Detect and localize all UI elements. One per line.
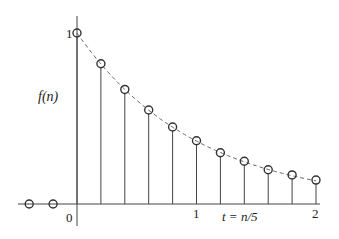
x-tick-label-2: 2 — [312, 206, 319, 221]
x-tick-label-1: 1 — [193, 206, 200, 221]
origin-label: 0 — [66, 210, 73, 225]
y-tick-label-1: 1 — [66, 26, 73, 41]
stems — [77, 37, 316, 204]
y-axis-label: f(n) — [38, 89, 59, 105]
stem-marker — [312, 176, 320, 184]
stem-marker — [121, 85, 129, 93]
stem-plot: 1 f(n) 0 1 2 t = n/5 — [0, 0, 339, 239]
x-axis-label: t = n/5 — [222, 209, 258, 224]
axes — [18, 16, 320, 226]
